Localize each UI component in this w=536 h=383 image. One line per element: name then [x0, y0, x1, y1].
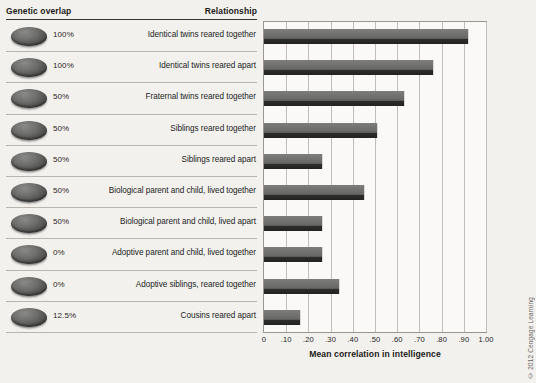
genetic-overlap-value: 12.5% [53, 311, 76, 320]
table-row: 50%Siblings reared apart [0, 146, 258, 177]
bar-row [264, 272, 486, 303]
bar [264, 154, 322, 169]
x-tick-label: .90 [458, 335, 469, 344]
bar [264, 29, 468, 44]
x-tick-label: 1.00 [478, 335, 493, 344]
table-row: 100%Identical twins reared together [0, 21, 258, 52]
plot-area [263, 21, 487, 333]
table-row: 100%Identical twins reared apart [0, 52, 258, 83]
table-row: 50%Biological parent and child, lived ap… [0, 208, 258, 239]
bar [264, 247, 322, 262]
bar [264, 185, 364, 200]
table-row: 50%Siblings reared together [0, 115, 258, 146]
x-axis-title: Mean correlation in intelligence [263, 349, 487, 359]
table-row: 12.5%Cousins reared apart [0, 302, 258, 333]
relationship-label: Siblings reared apart [181, 155, 256, 164]
relationship-table: 100%Identical twins reared together100%I… [0, 21, 258, 333]
relationship-label: Siblings reared together [170, 124, 256, 133]
genetic-overlap-disc-icon [11, 214, 47, 233]
header-divider [6, 19, 257, 20]
bar-row [264, 116, 486, 147]
genetic-overlap-disc-icon [11, 183, 47, 202]
copyright-credit: © 2012 Cengage Learning [527, 297, 534, 379]
bar [264, 60, 433, 75]
relationship-label: Fraternal twins reared together [146, 92, 256, 101]
table-row: 0%Adoptive parent and child, lived toget… [0, 239, 258, 270]
relationship-label: Adoptive siblings, reared together [136, 280, 256, 289]
gridline [486, 22, 487, 332]
bar-row [264, 84, 486, 115]
table-row: 0%Adoptive siblings, reared together [0, 271, 258, 302]
genetic-overlap-disc-icon [11, 152, 47, 171]
x-tick-label: .40 [347, 335, 358, 344]
genetic-overlap-disc-icon [11, 27, 47, 46]
x-tick-label: .70 [414, 335, 425, 344]
column-header-relationship: Relationship [0, 6, 257, 16]
bar [264, 279, 339, 294]
genetic-overlap-disc-icon [11, 245, 47, 264]
x-tick-label: .10 [281, 335, 292, 344]
genetic-overlap-value: 0% [53, 248, 65, 257]
x-tick-label: .60 [392, 335, 403, 344]
genetic-overlap-disc-icon [11, 121, 47, 140]
x-tick-label: 0 [262, 335, 266, 344]
relationship-label: Identical twins reared apart [159, 61, 256, 70]
table-row: 50%Fraternal twins reared together [0, 83, 258, 114]
genetic-overlap-value: 0% [53, 280, 65, 289]
bar [264, 123, 377, 138]
bar-row [264, 178, 486, 209]
bar-row [264, 240, 486, 271]
relationship-label: Cousins reared apart [181, 311, 256, 320]
genetic-overlap-disc-icon [11, 58, 47, 77]
table-row: 50%Biological parent and child, lived to… [0, 177, 258, 208]
genetic-overlap-disc-icon [11, 308, 47, 327]
x-axis: 0.10.20.30.40.50.60.70.80.901.00 Mean co… [263, 333, 487, 383]
genetic-overlap-value: 50% [53, 186, 69, 195]
x-tick-label: .20 [303, 335, 314, 344]
relationship-label: Identical twins reared together [148, 30, 256, 39]
genetic-overlap-value: 100% [53, 61, 74, 70]
relationship-label: Adoptive parent and child, lived togethe… [112, 248, 256, 257]
x-tick-label: .50 [370, 335, 381, 344]
x-tick-label: .80 [436, 335, 447, 344]
genetic-overlap-value: 50% [53, 217, 69, 226]
bar [264, 91, 404, 106]
genetic-overlap-value: 50% [53, 92, 69, 101]
x-tick-label: .30 [325, 335, 336, 344]
bar-row [264, 147, 486, 178]
figure-container: Genetic overlap Relationship 100%Identic… [0, 0, 536, 383]
bar-row [264, 22, 486, 53]
genetic-overlap-value: 50% [53, 155, 69, 164]
relationship-label: Biological parent and child, lived toget… [109, 186, 256, 195]
genetic-overlap-value: 50% [53, 124, 69, 133]
relationship-label: Biological parent and child, lived apart [120, 217, 256, 226]
row-divider [6, 332, 257, 333]
bar-series [264, 22, 486, 332]
genetic-overlap-disc-icon [11, 89, 47, 108]
bar [264, 216, 322, 231]
bar-row [264, 303, 486, 334]
genetic-overlap-value: 100% [53, 30, 74, 39]
genetic-overlap-disc-icon [11, 277, 47, 296]
bar-row [264, 53, 486, 84]
bar [264, 310, 300, 325]
bar-row [264, 209, 486, 240]
